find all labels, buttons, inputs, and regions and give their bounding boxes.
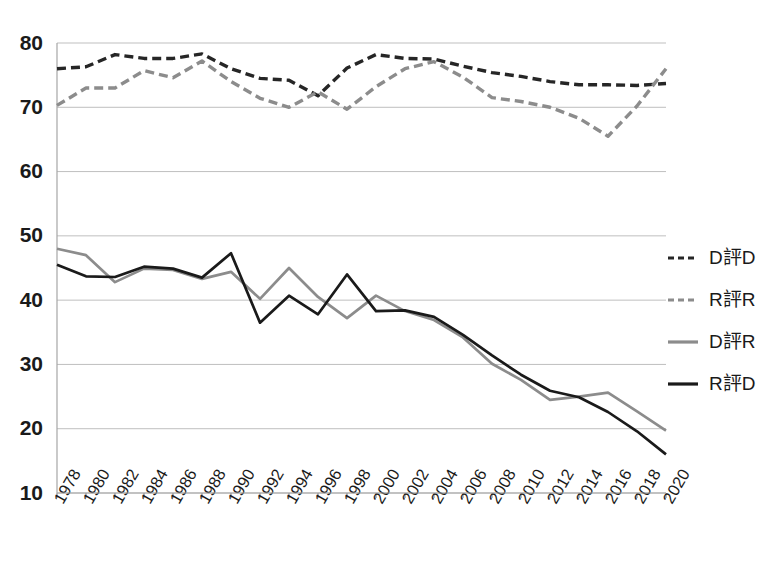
series-line-1 bbox=[57, 61, 666, 136]
x-tick-label-1990: 1990 bbox=[224, 466, 258, 507]
x-tick-label-1996: 1996 bbox=[311, 466, 345, 507]
y-tick-label-50: 50 bbox=[20, 223, 43, 246]
x-tick-label-2012: 2012 bbox=[543, 466, 577, 507]
y-tick-label-40: 40 bbox=[20, 288, 43, 311]
x-tick-label-2006: 2006 bbox=[456, 466, 490, 507]
x-tick-label-1980: 1980 bbox=[79, 466, 113, 507]
y-tick-label-70: 70 bbox=[20, 95, 43, 118]
chart-container: 8070605040302010 19781980198219841986198… bbox=[0, 0, 773, 569]
x-tick-label-1994: 1994 bbox=[282, 466, 316, 507]
chart-legend: D評DR評RD評RR評D bbox=[668, 247, 755, 394]
y-tick-label-60: 60 bbox=[20, 159, 43, 182]
x-tick-label-2018: 2018 bbox=[630, 466, 664, 507]
x-axis-tick-labels: 1978198019821984198619881990199219941996… bbox=[50, 466, 693, 507]
series-line-3 bbox=[57, 253, 666, 454]
x-tick-label-1978: 1978 bbox=[50, 466, 84, 507]
line-chart: 8070605040302010 19781980198219841986198… bbox=[0, 0, 773, 569]
series-group bbox=[57, 54, 666, 455]
legend-label-2: D評R bbox=[709, 331, 755, 352]
y-axis-tick-labels: 8070605040302010 bbox=[20, 31, 43, 504]
x-tick-label-1986: 1986 bbox=[166, 466, 200, 507]
y-tick-label-10: 10 bbox=[20, 481, 43, 504]
x-tick-label-1984: 1984 bbox=[137, 466, 171, 507]
x-tick-label-2010: 2010 bbox=[514, 466, 548, 507]
legend-label-0: D評D bbox=[709, 247, 755, 268]
legend-label-1: R評R bbox=[709, 289, 755, 310]
y-tick-label-30: 30 bbox=[20, 352, 43, 375]
x-tick-label-2002: 2002 bbox=[398, 466, 432, 507]
x-tick-label-2004: 2004 bbox=[427, 466, 461, 507]
y-tick-label-80: 80 bbox=[20, 31, 43, 54]
x-tick-label-2008: 2008 bbox=[485, 466, 519, 507]
series-line-2 bbox=[57, 249, 666, 431]
x-tick-label-1988: 1988 bbox=[195, 466, 229, 507]
x-tick-label-2000: 2000 bbox=[369, 466, 403, 507]
x-tick-label-1982: 1982 bbox=[108, 466, 142, 507]
y-tick-label-20: 20 bbox=[20, 416, 43, 439]
x-tick-label-1992: 1992 bbox=[253, 466, 287, 507]
x-tick-label-2020: 2020 bbox=[659, 466, 693, 507]
x-tick-label-2014: 2014 bbox=[572, 466, 606, 507]
series-line-0 bbox=[57, 54, 666, 96]
x-tick-label-1998: 1998 bbox=[340, 466, 374, 507]
x-tick-label-2016: 2016 bbox=[601, 466, 635, 507]
legend-label-3: R評D bbox=[709, 373, 755, 394]
